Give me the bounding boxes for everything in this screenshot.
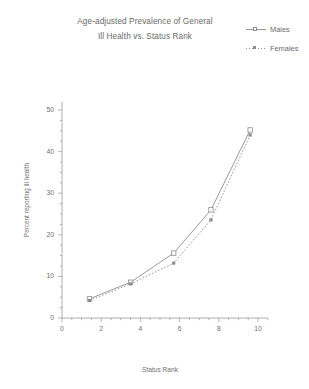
chart-figure: Age-adjusted Prevalence of General Ill H… (0, 0, 309, 389)
y-tick-label: 30 (38, 189, 54, 196)
x-tick-label: 0 (54, 325, 70, 332)
data-point-males-4 (248, 128, 252, 132)
data-point-females-4 (249, 133, 252, 136)
y-tick-label: 50 (38, 106, 54, 113)
series-line-females (89, 135, 250, 301)
x-tick-label: 10 (250, 325, 266, 332)
x-tick-label: 8 (211, 325, 227, 332)
x-tick-label: 4 (132, 325, 148, 332)
data-point-females-0 (88, 299, 91, 302)
data-point-females-3 (209, 218, 212, 221)
y-tick-label: 0 (38, 314, 54, 321)
x-tick-label: 6 (172, 325, 188, 332)
series-line-males (89, 130, 250, 299)
x-tick-label: 2 (93, 325, 109, 332)
data-point-males-3 (209, 208, 213, 212)
data-point-females-2 (172, 261, 175, 264)
y-tick-label: 40 (38, 148, 54, 155)
y-tick-label: 20 (38, 231, 54, 238)
data-point-females-1 (129, 282, 132, 285)
y-tick-label: 10 (38, 272, 54, 279)
data-point-males-2 (172, 251, 176, 255)
